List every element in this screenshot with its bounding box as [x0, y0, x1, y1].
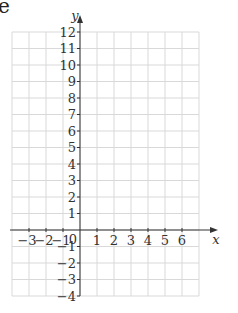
tick-labels: −3−2−1123456−4−3−2−11234567891011120xy: [17, 8, 220, 304]
y-axis-label: y: [70, 8, 79, 23]
y-tick-label: −2: [57, 256, 76, 271]
y-tick-label: 5: [68, 140, 76, 155]
y-tick-label: 6: [68, 124, 76, 139]
y-tick-label: 4: [68, 157, 76, 172]
y-tick-label: 10: [59, 58, 76, 73]
x-tick-label: 6: [178, 233, 186, 248]
y-tick-label: −4: [57, 289, 76, 304]
x-axis-label: x: [212, 232, 220, 247]
x-tick-label: 4: [144, 233, 152, 248]
y-tick-label: 9: [68, 74, 76, 89]
coordinate-grid: −3−2−1123456−4−3−2−11234567891011120xy: [0, 0, 238, 313]
x-tick-label: 2: [110, 233, 118, 248]
y-tick-label: 7: [68, 107, 76, 122]
y-tick-label: −3: [57, 272, 76, 287]
y-tick-label: 1: [68, 206, 76, 221]
y-tick-label: 2: [68, 190, 76, 205]
y-tick-label: 11: [59, 41, 76, 56]
x-tick-label: 1: [93, 233, 101, 248]
x-tick-label: 5: [161, 233, 169, 248]
origin-label: 0: [69, 232, 77, 247]
y-tick-label: 12: [59, 25, 76, 40]
grid-lines: [12, 32, 199, 296]
y-tick-label: 3: [68, 173, 76, 188]
x-tick-label: 3: [127, 233, 135, 248]
y-tick-label: 8: [68, 91, 76, 106]
